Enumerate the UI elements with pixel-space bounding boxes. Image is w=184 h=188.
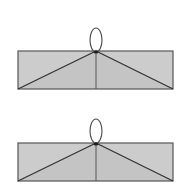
diagram-canvas xyxy=(0,0,184,188)
figure-bottom xyxy=(18,119,173,181)
hanging-loop xyxy=(90,119,102,143)
apex-knot xyxy=(94,143,99,146)
hanging-loop xyxy=(90,28,102,52)
figure-top xyxy=(18,28,173,89)
apex-knot xyxy=(94,51,99,54)
